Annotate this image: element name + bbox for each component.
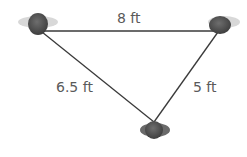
edge-label-right: 5 ft xyxy=(193,79,217,95)
edge-right xyxy=(154,32,218,122)
person-bottom-icon xyxy=(140,121,170,139)
edge-label-left: 6.5 ft xyxy=(56,79,93,95)
person-top-right-icon xyxy=(208,16,240,34)
edge-label-top: 8 ft xyxy=(117,10,141,26)
edges xyxy=(40,31,218,122)
edge-left xyxy=(42,32,154,122)
person-top-left-icon xyxy=(18,13,58,35)
